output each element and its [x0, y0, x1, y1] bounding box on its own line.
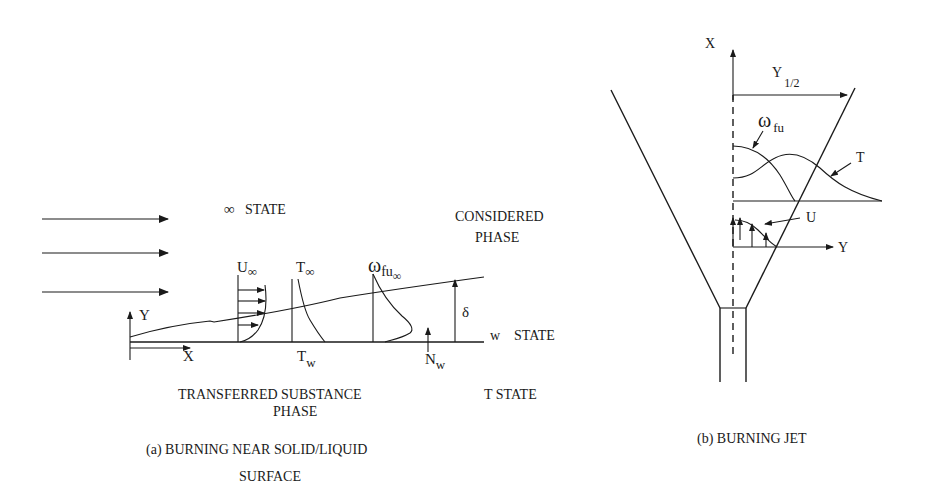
t-pointer-arrow — [831, 163, 851, 176]
y-half-label: Y1/2 — [772, 65, 799, 90]
caption-a-line1: (a) BURNING NEAR SOLID/LIQUID — [146, 442, 367, 458]
t-w-label: Tw — [297, 348, 316, 370]
omega-pointer-arrow — [753, 131, 763, 148]
omega-profile-curve — [373, 274, 412, 342]
infinity-state-label: STATE — [245, 202, 286, 217]
caption-b: (b) BURNING JET — [697, 431, 807, 447]
n-w-label: Nw — [425, 351, 446, 372]
w-state-label: STATE — [514, 328, 555, 343]
caption-a-line2: SURFACE — [239, 469, 301, 484]
panel-a-boundary-layer: ∞ STATE CONSIDERED PHASE U∞ T∞ ωfu∞ δ w … — [42, 201, 555, 484]
jet-y-axis-label: Y — [838, 240, 848, 255]
boundary-layer-edge — [130, 277, 484, 337]
omega-fu-label: ωfu — [758, 109, 785, 135]
jet-left-edge — [611, 90, 720, 308]
delta-label: δ — [462, 304, 469, 320]
u-velocity-label: U — [806, 210, 816, 225]
t-profile-curve — [298, 279, 325, 342]
jet-x-axis-label: X — [705, 36, 715, 51]
w-state-w: w — [490, 328, 501, 343]
t-state-label: T STATE — [484, 387, 537, 402]
t-infinity-label: T∞ — [296, 259, 314, 279]
panel-b-burning-jet: X Y1/2 ωfu T U Y (b) BURNING JET — [611, 36, 882, 447]
temperature-label: T — [856, 150, 865, 165]
y-axis-label: Y — [139, 307, 150, 323]
infinity-symbol: ∞ — [224, 201, 235, 217]
u-infinity-label: U∞ — [237, 259, 257, 279]
transferred-substance-line1: TRANSFERRED SUBSTANCE — [178, 387, 362, 402]
x-axis-label: X — [183, 348, 194, 364]
considered-phase-line1: CONSIDERED — [455, 209, 544, 224]
u-profile-curve-jet — [735, 220, 777, 247]
considered-phase-line2: PHASE — [475, 230, 519, 245]
burning-diagram-canvas: ∞ STATE CONSIDERED PHASE U∞ T∞ ωfu∞ δ w … — [0, 0, 926, 486]
transferred-substance-line2: PHASE — [273, 404, 317, 419]
u-pointer-arrow — [765, 218, 800, 224]
